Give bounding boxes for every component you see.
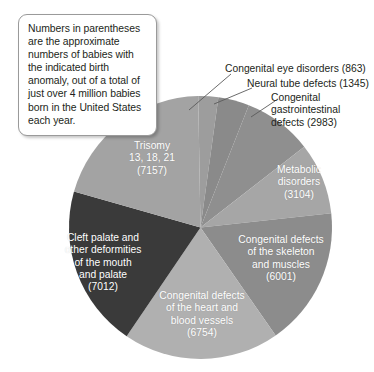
slice-label-cleft-palate-mouth-palate: Cleft palate and other deformities of th…: [38, 232, 168, 293]
explanatory-note-text: Numbers in parentheses are the approxima…: [28, 22, 148, 127]
pie-chart-figure: Numbers in parentheses are the approxima…: [0, 0, 374, 372]
slice-label-congenital-gastrointestinal-defects: Congenital gastrointestinal defects (298…: [271, 92, 340, 129]
slice-label-congenital-eye-disorders: Congenital eye disorders (863): [225, 63, 366, 75]
slice-label-neural-tube-defects: Neural tube defects (1345): [247, 78, 369, 90]
slice-label-congenital-defects-heart-blood-vessels: Congenital defects of the heart and bloo…: [136, 290, 268, 339]
slice-label-trisomy-13-18-21: Trisomy 13, 18, 21 (7157): [104, 140, 200, 177]
slice-label-metabolic-disorders: Metabolic disorders (3104): [258, 164, 340, 201]
slice-label-congenital-defects-skeleton-muscles: Congenital defects of the skeleton and m…: [216, 234, 346, 283]
explanatory-note-callout: Numbers in parentheses are the approxima…: [18, 14, 157, 136]
